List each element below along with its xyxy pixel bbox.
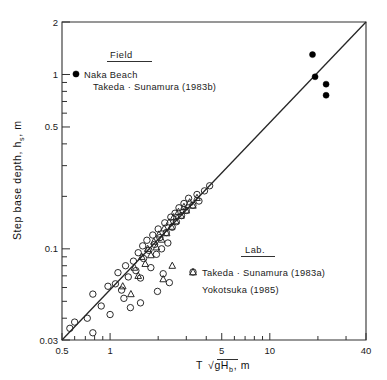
y-tick-label: 2 [53,17,58,28]
data-point-open-circle [84,315,90,321]
data-point-open-circle [90,330,96,336]
y-axis-tick-labels: 0.030.10.512 [40,17,59,346]
legend-field-entry-line2: Takeda · Sunamura (1983b) [93,82,216,92]
data-point-open-circle [166,279,172,285]
data-point-open-circle [98,303,104,309]
y-axis-title-suffix: , m [11,120,23,136]
data-point-open-circle [122,263,128,269]
data-point-open-circle [165,240,171,246]
legend-lab-entry-1-label: Yokotsuka (1985) [202,285,279,295]
x-axis-title-text: T√gHb, m [196,359,250,374]
data-point-open-circle [90,291,96,297]
x-axis-tick-labels: 0.5151040 [55,345,371,356]
data-point-filled-circle [323,81,329,87]
y-tick-label: 1 [53,69,58,80]
data-point-open-circle [144,237,150,243]
x-axis-title-prefix: T [196,359,203,371]
x-axis-ticks [62,333,366,340]
legend-lab: Lab. Takeda · Sunamura (1983a) Yokotsuka… [190,245,326,295]
x-axis-title: T√gHb, m [196,359,250,374]
data-point-open-circle [127,304,133,310]
scatter-plot-canvas: 0.5151040 0.030.10.512 Field Naka Beach … [0,0,387,380]
data-point-triangle [128,291,135,297]
data-point-open-circle [125,274,131,280]
y-axis-title-main: Step base depth, h [11,141,23,240]
legend-field-entry-line1: Naka Beach [84,70,138,80]
chart-figure: 0.5151040 0.030.10.512 Field Naka Beach … [0,0,387,380]
series-naka-beach-points [310,52,330,99]
data-point-open-circle [107,311,113,317]
data-point-triangle [169,262,176,268]
data-point-open-circle [148,264,154,270]
legend-field: Field Naka Beach Takeda · Sunamura (1983… [73,50,216,92]
data-point-open-circle [154,288,160,294]
legend-lab-header: Lab. [245,245,265,255]
y-axis-ticks [62,22,70,340]
x-tick-label: 0.5 [55,345,68,356]
legend-lab-entry-0-label: Takeda · Sunamura (1983a) [202,268,325,278]
data-point-open-circle [71,319,77,325]
data-point-open-circle [130,258,136,264]
x-tick-label: 5 [219,345,224,356]
x-tick-label: 10 [265,345,276,356]
data-point-filled-circle [323,92,329,98]
data-point-open-circle [139,243,145,249]
x-axis-title-radicand: gH [214,359,229,371]
data-point-open-circle [121,295,127,301]
y-tick-label: 0.5 [45,121,58,132]
y-tick-label: 0.1 [45,243,58,254]
legend-field-marker-filled-circle [73,71,79,77]
x-tick-label: 40 [361,345,372,356]
data-point-filled-circle [310,52,316,58]
data-point-open-circle [137,300,143,306]
data-point-triangle [119,283,126,289]
x-tick-label: 1 [107,345,112,356]
data-point-open-circle [153,251,159,257]
x-axis-title-suffix: , m [234,359,250,371]
data-point-open-circle [118,287,124,293]
y-tick-label: 0.03 [40,335,59,346]
series-yokotsuka-1985-points [119,194,200,296]
legend-field-header: Field [110,50,133,60]
data-point-open-circle [67,325,73,331]
data-point-open-circle [105,283,111,289]
y-axis-title: Step base depth, hs, m [11,120,26,240]
y-axis-title-text: Step base depth, hs, m [11,120,26,240]
data-point-filled-circle [312,74,318,80]
data-point-open-circle [115,269,121,275]
